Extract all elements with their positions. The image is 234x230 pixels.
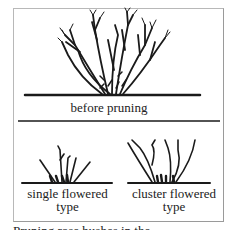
shrub-cluster-flowered-icon — [128, 140, 210, 183]
clipped-body-text: Pruning rose bushes in the — [13, 224, 150, 230]
shrub-single-flowered-icon — [22, 146, 112, 183]
caption-single-flowered-type: type — [20, 200, 115, 213]
shrub-before-pruning-icon — [25, 8, 200, 95]
caption-before-pruning: before pruning — [63, 101, 155, 114]
caption-cluster-flowered-type: type — [126, 200, 222, 213]
